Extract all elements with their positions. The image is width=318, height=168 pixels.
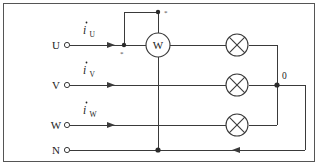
terminal-label-u: U — [52, 39, 60, 51]
current-subscript-w: W — [90, 110, 98, 119]
terminal-label-n: N — [52, 144, 60, 156]
terminal-u — [64, 42, 69, 47]
current-label-u: i U — [83, 22, 96, 39]
current-dot-u — [86, 22, 88, 24]
junction-meter-neutral — [155, 147, 160, 152]
current-label-w: i W — [83, 102, 98, 119]
current-symbol-u: i — [83, 24, 86, 36]
current-symbol-w: i — [83, 104, 86, 116]
terminal-label-v: V — [52, 79, 60, 91]
junction-star-point — [274, 82, 279, 87]
polarity-mark-current-coil: * — [120, 50, 124, 58]
current-subscript-v: V — [90, 70, 96, 79]
circuit-schematic: W U V W N i U i V — [0, 0, 318, 168]
arrow-current-v — [107, 82, 115, 88]
arrow-current-neutral — [232, 147, 240, 153]
polarity-mark-voltage-coil: * — [164, 9, 168, 17]
terminal-label-w: W — [51, 119, 62, 131]
current-dot-v — [86, 62, 88, 64]
current-label-v: i V — [83, 62, 96, 79]
arrow-current-u — [107, 42, 115, 48]
diagram-border — [4, 4, 315, 162]
lamp-u-symbol — [226, 34, 248, 56]
junction-voltage-coil-top — [156, 10, 160, 14]
arrow-current-w — [107, 122, 115, 128]
terminal-w — [64, 122, 69, 127]
current-dot-w — [86, 102, 88, 104]
node-label-star-point: 0 — [282, 71, 287, 81]
lamp-v-symbol — [226, 74, 248, 96]
circuit-diagram: W U V W N i U i V — [0, 0, 318, 168]
lamp-w-symbol — [226, 114, 248, 136]
wattmeter-label: W — [153, 39, 164, 51]
current-symbol-v: i — [83, 64, 86, 76]
junction-voltage-coil — [122, 43, 126, 47]
terminal-n — [64, 147, 69, 152]
terminal-v — [64, 82, 69, 87]
current-subscript-u: U — [90, 30, 96, 39]
